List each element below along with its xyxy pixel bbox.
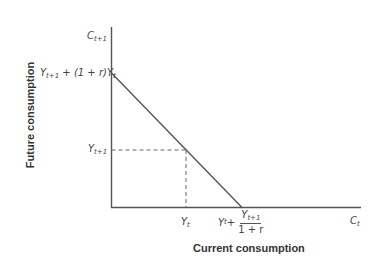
fraction-denominator: 1 + r (238, 224, 263, 235)
label-sub: t (357, 220, 360, 228)
fraction-numerator: Yt+1 (240, 210, 261, 224)
y-intercept-label: Yt+1 + (1 + r)Yt (40, 68, 116, 80)
label-part: + (1 + r)Y (59, 67, 113, 78)
fraction: Yt+1 1 + r (238, 210, 263, 235)
budget-constraint-diagram: Ct+1 Yt+1 + (1 + r)Yt Yt+1 Yt Yt + Yt+1 … (0, 0, 382, 266)
label-sub: t+1 (94, 148, 107, 156)
label-sub: t (113, 72, 116, 80)
y-endowment-label: Yt+1 (88, 144, 107, 156)
label-sub: t+1 (46, 72, 59, 80)
x-axis-end-label: Ct (350, 216, 360, 228)
label-sub: t+1 (247, 214, 260, 222)
label-base: C (350, 215, 357, 226)
y-axis-title: Future consumption (25, 62, 36, 168)
plus-sign: + (227, 218, 235, 228)
x-axis-title: Current consumption (193, 243, 305, 254)
label-sub: t (187, 221, 190, 229)
y-axis-end-label: Ct+1 (87, 31, 107, 43)
label-sub: t+1 (94, 35, 107, 43)
budget-line (112, 73, 243, 208)
x-intercept-label: Yt + Yt+1 1 + r (218, 210, 263, 235)
label-base: C (87, 30, 94, 41)
x-endowment-label: Yt (181, 217, 190, 229)
plot-area (0, 0, 382, 266)
